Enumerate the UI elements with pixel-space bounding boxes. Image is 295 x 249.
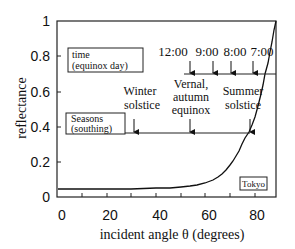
x-tick-label: 80 <box>249 207 265 223</box>
x-tick-labels: 0 20 40 60 80 <box>58 207 265 223</box>
time-label-line1: time <box>72 49 90 60</box>
season-arrows <box>134 119 250 132</box>
season-labels: Winter solstice Vernal, autumn equinox S… <box>124 77 264 117</box>
location-label: Tokyo <box>242 179 265 189</box>
y-tick-label: 1 <box>42 13 50 29</box>
reflectance-chart: 1 0.8 0.6 0.4 0.2 0 0 20 40 60 80 reflec… <box>0 0 295 249</box>
y-tick-label: 0 <box>42 189 50 205</box>
x-axis-title: incident angle θ (degrees) <box>100 227 245 243</box>
x-tick-label: 20 <box>102 207 118 223</box>
time-label: 7:00 <box>250 44 273 59</box>
time-arrows <box>190 61 253 73</box>
x-tick-label: 40 <box>152 207 168 223</box>
y-tick-labels: 1 0.8 0.6 0.4 0.2 0 <box>31 13 51 205</box>
y-tick-label: 0.2 <box>31 154 51 170</box>
y-axis-title: reflectance <box>14 77 29 138</box>
y-tick-label: 0.6 <box>31 84 51 100</box>
y-tick-label: 0.4 <box>31 119 51 135</box>
x-axis <box>82 193 255 197</box>
equinox-label: Vernal, <box>174 77 208 91</box>
summer-solstice-label: solstice <box>225 98 261 112</box>
time-label-line2: (equinox day) <box>72 60 128 72</box>
x-tick-label: 0 <box>58 207 66 223</box>
equinox-label: autumn <box>173 90 209 104</box>
time-label: 9:00 <box>195 44 218 59</box>
x-tick-label: 60 <box>201 207 217 223</box>
time-label: 12:00 <box>158 44 188 59</box>
winter-solstice-label: Winter <box>124 84 157 98</box>
summer-solstice-label: Summer <box>223 84 264 98</box>
time-label: 8:00 <box>223 44 246 59</box>
winter-solstice-label: solstice <box>124 98 160 112</box>
y-tick-label: 0.8 <box>31 48 51 64</box>
seasons-label-line2: (southing) <box>71 123 112 135</box>
time-labels: 12:00 9:00 8:00 7:00 <box>158 44 273 59</box>
equinox-label: equinox <box>172 103 211 117</box>
